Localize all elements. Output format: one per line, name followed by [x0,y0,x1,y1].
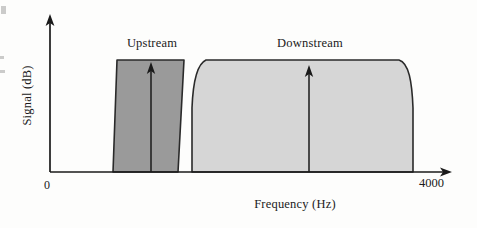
adsl-spectrum-figure: Upstream Downstream 0 4000 Frequency (Hz… [0,0,477,228]
downstream-band-shape [192,60,413,172]
x-axis-tick-label-max: 4000 [419,176,444,191]
spectrum-plot-svg [0,0,477,228]
upstream-band-shape [113,60,184,172]
scan-edge-artifact [0,70,5,73]
x-axis-title: Frequency (Hz) [210,197,380,212]
y-axis-title: Signal (dB) [20,46,35,146]
x-axis-tick-label-min: 0 [44,178,50,193]
scan-edge-artifact [1,6,6,14]
scan-edge-artifact [0,56,4,59]
downstream-band-label: Downstream [190,36,430,51]
